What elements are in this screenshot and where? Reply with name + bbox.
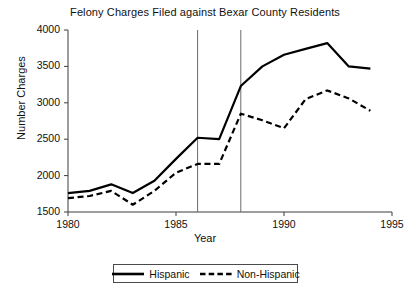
chart-container: Felony Charges Filed against Bexar Count… [0,0,410,292]
legend-label-non-hispanic: Non-Hispanic [237,268,300,280]
series-line-non-hispanic [68,90,370,204]
plot-area [0,0,410,292]
legend-swatch-solid-icon [111,269,145,279]
reference-vertical-lines [198,30,241,212]
data-series-group [68,43,370,205]
legend-item-non-hispanic: Non-Hispanic [199,268,300,280]
legend-swatch-dashed-icon [199,269,233,279]
axis-lines [68,30,392,212]
chart-legend: Hispanic Non-Hispanic [113,264,298,283]
y-tick-marks [64,30,68,212]
series-line-hispanic [68,43,370,193]
x-tick-marks [68,212,392,216]
legend-item-hispanic: Hispanic [111,268,189,280]
legend-label-hispanic: Hispanic [149,268,189,280]
